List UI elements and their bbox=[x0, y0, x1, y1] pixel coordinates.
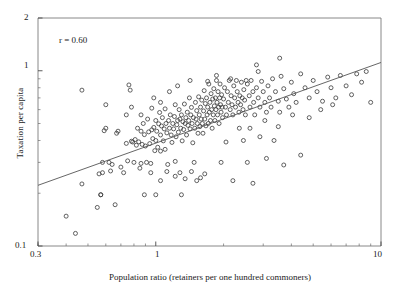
data-point bbox=[315, 90, 319, 94]
data-point bbox=[159, 133, 163, 137]
data-point bbox=[185, 110, 189, 114]
data-point bbox=[149, 171, 153, 175]
data-point bbox=[146, 117, 150, 121]
data-point bbox=[252, 100, 256, 104]
data-point bbox=[360, 80, 364, 84]
data-point bbox=[189, 105, 193, 109]
data-point bbox=[263, 119, 267, 123]
data-point bbox=[307, 96, 311, 100]
data-point bbox=[159, 100, 163, 104]
data-point bbox=[350, 93, 354, 97]
data-point bbox=[218, 82, 222, 86]
data-point bbox=[113, 203, 117, 207]
data-point bbox=[258, 135, 262, 139]
data-point bbox=[205, 96, 209, 100]
data-point bbox=[269, 105, 273, 109]
data-point bbox=[224, 140, 228, 144]
data-point bbox=[163, 107, 167, 111]
data-point bbox=[235, 90, 239, 94]
data-point bbox=[193, 100, 197, 104]
data-point bbox=[307, 116, 311, 120]
data-point bbox=[139, 161, 143, 165]
data-point bbox=[294, 100, 298, 104]
data-point bbox=[289, 80, 293, 84]
data-point bbox=[127, 83, 131, 87]
data-point bbox=[253, 113, 257, 117]
data-point bbox=[166, 162, 170, 166]
data-point bbox=[326, 75, 330, 79]
data-point bbox=[284, 97, 288, 101]
data-point bbox=[254, 86, 258, 90]
correlation-annotation: r = 0.60 bbox=[59, 35, 87, 45]
data-point bbox=[154, 138, 158, 142]
data-point bbox=[210, 108, 214, 112]
data-point bbox=[182, 102, 186, 106]
data-point bbox=[319, 108, 323, 112]
data-point bbox=[99, 193, 103, 197]
data-point bbox=[243, 98, 247, 102]
data-point bbox=[95, 205, 99, 209]
data-point bbox=[217, 122, 221, 126]
data-point bbox=[185, 133, 189, 137]
data-point bbox=[291, 113, 295, 117]
data-point bbox=[159, 179, 163, 183]
data-point bbox=[219, 160, 223, 164]
x-tick-label-0: 0.3 bbox=[30, 249, 41, 259]
data-point bbox=[187, 119, 191, 123]
data-point bbox=[233, 96, 237, 100]
data-point bbox=[251, 90, 255, 94]
data-point bbox=[210, 126, 214, 130]
data-point bbox=[139, 113, 143, 117]
data-point bbox=[64, 214, 68, 218]
data-point bbox=[219, 110, 223, 114]
data-point bbox=[228, 108, 232, 112]
data-point bbox=[248, 126, 252, 130]
data-point bbox=[162, 127, 166, 131]
data-point bbox=[254, 63, 258, 67]
data-point bbox=[173, 174, 177, 178]
data-point bbox=[282, 87, 286, 91]
data-point bbox=[299, 153, 303, 157]
data-point bbox=[200, 98, 204, 102]
data-point bbox=[154, 193, 158, 197]
data-point bbox=[175, 123, 179, 127]
axes-frame bbox=[38, 18, 381, 246]
data-point bbox=[247, 94, 251, 98]
data-point bbox=[158, 110, 162, 114]
x-axis-label: Population ratio (retainers per one hund… bbox=[38, 272, 382, 282]
data-point bbox=[205, 113, 209, 117]
data-point bbox=[278, 110, 282, 114]
data-point bbox=[364, 70, 368, 74]
data-point bbox=[216, 113, 220, 117]
data-point bbox=[178, 171, 182, 175]
data-point bbox=[272, 138, 276, 142]
data-point bbox=[138, 166, 142, 170]
data-point bbox=[104, 103, 108, 107]
data-point bbox=[183, 177, 187, 181]
data-point-group bbox=[64, 56, 373, 235]
data-point bbox=[222, 97, 226, 101]
data-point bbox=[249, 78, 253, 82]
data-point bbox=[165, 131, 169, 135]
data-point bbox=[226, 100, 230, 104]
data-point bbox=[214, 78, 218, 82]
data-point bbox=[203, 172, 207, 176]
data-point bbox=[191, 141, 195, 145]
data-point bbox=[122, 171, 126, 175]
data-point bbox=[207, 110, 211, 114]
data-point bbox=[214, 73, 218, 77]
data-point bbox=[145, 160, 149, 164]
data-point bbox=[176, 84, 180, 88]
data-point bbox=[329, 86, 333, 90]
data-point bbox=[129, 105, 133, 109]
data-point bbox=[206, 105, 210, 109]
x-tick-label-2: 10 bbox=[373, 249, 382, 259]
data-point bbox=[264, 110, 268, 114]
data-point bbox=[188, 78, 192, 82]
data-point bbox=[172, 127, 176, 131]
y-tick-label-1: 1 bbox=[24, 60, 29, 70]
data-point bbox=[216, 90, 220, 94]
data-point bbox=[299, 72, 303, 76]
data-point bbox=[170, 140, 174, 144]
data-point bbox=[195, 109, 199, 113]
